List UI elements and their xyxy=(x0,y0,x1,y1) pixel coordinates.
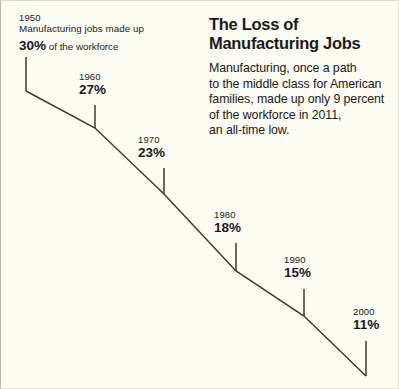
callout-sentence-1950: Manufacturing jobs made up xyxy=(19,23,144,35)
callout-value-1990: 15% xyxy=(284,265,311,281)
page-title: The Loss of Manufacturing Jobs xyxy=(209,15,395,54)
callout-year-1990: 1990 xyxy=(284,254,311,265)
callout-tail-1950: of the workforce xyxy=(46,41,118,52)
callout-year-2000: 2000 xyxy=(353,306,379,317)
title-line-1: The Loss of xyxy=(209,15,395,34)
data-callout-1980: 1980 18% xyxy=(214,209,241,236)
callout-year-1980: 1980 xyxy=(214,209,241,220)
deck-line-4: of the workforce in 2011, xyxy=(209,108,395,124)
callout-value-1950: 30% xyxy=(19,38,46,53)
deck-line-5: an all-time low. xyxy=(209,123,395,139)
data-callout-1950: 1950 Manufacturing jobs made up 30% of t… xyxy=(19,12,144,55)
data-callout-1990: 1990 15% xyxy=(284,254,311,281)
data-callout-1960: 1960 27% xyxy=(79,71,106,98)
deck-line-1: Manufacturing, once a path xyxy=(209,61,395,77)
deck-text: Manufacturing, once a path to the middle… xyxy=(209,61,395,139)
callout-value-1980: 18% xyxy=(214,220,241,236)
title-line-2: Manufacturing Jobs xyxy=(209,34,395,53)
infographic-canvas: The Loss of Manufacturing Jobs Manufactu… xyxy=(0,0,399,389)
callout-value-2000: 11% xyxy=(353,317,379,333)
headline-block: The Loss of Manufacturing Jobs Manufactu… xyxy=(209,15,395,139)
callout-value-1960: 27% xyxy=(79,82,106,98)
data-callout-2000: 2000 11% xyxy=(353,306,379,333)
callout-value-line-1950: 30% of the workforce xyxy=(19,36,144,55)
callout-year-1960: 1960 xyxy=(79,71,106,82)
data-callout-1970: 1970 23% xyxy=(138,134,165,161)
deck-line-3: families, made up only 9 percent xyxy=(209,92,395,108)
deck-line-2: to the middle class for American xyxy=(209,77,395,93)
callout-value-1970: 23% xyxy=(138,145,165,161)
callout-year-1950: 1950 xyxy=(19,12,144,23)
callout-year-1970: 1970 xyxy=(138,134,165,145)
